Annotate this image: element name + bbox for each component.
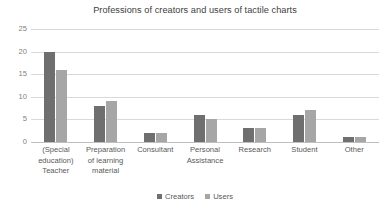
bar-users[interactable] <box>255 128 266 142</box>
bar-group <box>81 29 131 142</box>
bar-creators[interactable] <box>194 115 205 142</box>
bar-group <box>230 29 280 142</box>
x-axis-category-label: Research <box>230 145 280 187</box>
bar-users[interactable] <box>106 101 117 142</box>
y-axis-tick-label: 5 <box>3 115 27 123</box>
x-axis-category-label: PersonalAssistance <box>180 145 230 187</box>
x-axis-category-label: Preparationof learningmaterial <box>81 145 131 187</box>
x-axis: (Specialeducation)TeacherPreparationof l… <box>31 145 379 187</box>
bar-users[interactable] <box>156 133 167 142</box>
y-axis: 2520151050 <box>0 29 27 142</box>
legend-swatch-icon <box>157 194 162 199</box>
y-axis-tick-label: 10 <box>3 93 27 101</box>
chart-title: Professions of creators and users of tac… <box>0 5 390 15</box>
y-axis-tick-label: 20 <box>3 48 27 56</box>
bar-creators[interactable] <box>94 106 105 142</box>
legend-label: Users <box>213 193 233 201</box>
y-axis-tick-label: 15 <box>3 70 27 78</box>
bar-group <box>31 29 81 142</box>
legend-item-users[interactable]: Users <box>205 193 233 201</box>
bar-creators[interactable] <box>44 52 55 142</box>
gridline <box>31 142 379 143</box>
bar-group <box>180 29 230 142</box>
bar-users[interactable] <box>355 137 366 142</box>
bar-group <box>280 29 330 142</box>
x-axis-category-label: Student <box>280 145 330 187</box>
legend-item-creators[interactable]: Creators <box>157 193 194 201</box>
bar-users[interactable] <box>56 70 67 142</box>
x-axis-category-label: Consultant <box>130 145 180 187</box>
bar-users[interactable] <box>305 110 316 142</box>
y-axis-tick-label: 25 <box>3 25 27 33</box>
x-axis-category-label: (Specialeducation)Teacher <box>31 145 81 187</box>
bar-creators[interactable] <box>243 128 254 142</box>
bar-creators[interactable] <box>144 133 155 142</box>
y-axis-tick-label: 0 <box>3 138 27 146</box>
bar-creators[interactable] <box>293 115 304 142</box>
bars-layer <box>31 29 379 142</box>
chart-legend: CreatorsUsers <box>0 193 390 201</box>
bar-users[interactable] <box>206 119 217 142</box>
bar-group <box>329 29 379 142</box>
legend-label: Creators <box>165 193 194 201</box>
bar-group <box>130 29 180 142</box>
bar-creators[interactable] <box>343 137 354 142</box>
legend-swatch-icon <box>205 194 210 199</box>
bar-chart: Professions of creators and users of tac… <box>0 0 390 217</box>
plot-area <box>31 29 379 142</box>
x-axis-category-label: Other <box>329 145 379 187</box>
